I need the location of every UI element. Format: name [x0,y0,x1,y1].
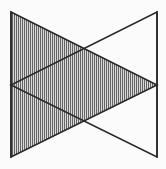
figure-canvas [0,0,166,169]
geometry-diagram [0,0,166,169]
